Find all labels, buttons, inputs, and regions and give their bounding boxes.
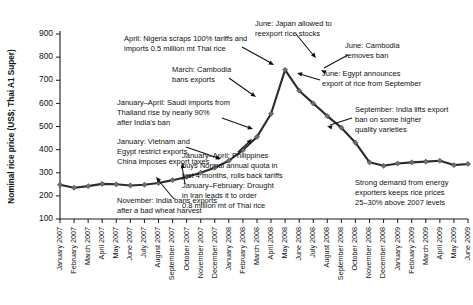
y-tick-label: 500 bbox=[39, 121, 53, 131]
x-tick-label: September 2007 bbox=[167, 227, 176, 280]
annotation-line: April: Nigeria scraps 100% tariffs and bbox=[124, 34, 247, 43]
x-tick-label: March 2007 bbox=[83, 227, 92, 265]
x-tick-label: February 2007 bbox=[69, 227, 78, 274]
leader-arrowhead bbox=[247, 125, 253, 129]
leader-arrowhead bbox=[268, 61, 274, 65]
data-point bbox=[437, 158, 442, 163]
leader-line bbox=[229, 78, 253, 95]
annotation-nigeria-tariffs-apr-2008: April: Nigeria scraps 100% tariffs andim… bbox=[124, 34, 274, 65]
y-axis-title: Nominal rice price (US$; Thai A1 Super) bbox=[7, 49, 16, 204]
annotation-line: March: Cambodia bbox=[172, 65, 232, 74]
annotation-line: June: Japan allowed to bbox=[255, 19, 332, 28]
leader-line bbox=[242, 47, 271, 63]
annotation-egypt-export-jun-2008: June: Egypt announcesexport of rice from… bbox=[297, 69, 422, 88]
y-tick-label: 700 bbox=[39, 74, 53, 84]
annotation-line: removes ban bbox=[345, 51, 388, 60]
annotation-line: 25–30% above 2007 levels bbox=[355, 198, 445, 207]
y-tick-label: 800 bbox=[39, 51, 53, 61]
x-tick-label: January 2007 bbox=[55, 227, 64, 271]
annotation-line: quality varieties bbox=[355, 125, 407, 134]
x-tick-label: October 2008 bbox=[350, 227, 359, 271]
annotation-saudi-imports-jan-apr-2008: January–April: Saudi imports fromThailan… bbox=[117, 98, 253, 129]
x-tick-label: March 2009 bbox=[421, 227, 430, 265]
y-tick-label: 200 bbox=[39, 190, 53, 200]
x-tick-label: May 2007 bbox=[111, 227, 120, 259]
x-tick-label: April 2007 bbox=[97, 227, 106, 259]
annotation-line: Strong demand from energy bbox=[355, 178, 449, 187]
annotation-line: June: Cambodia bbox=[345, 41, 400, 50]
data-point bbox=[86, 184, 91, 189]
annotation-line: buys Normal annual quota in bbox=[182, 161, 277, 170]
x-tick-label: December 2007 bbox=[210, 227, 219, 278]
annotation-line: June: Egypt announces bbox=[322, 69, 401, 78]
annotation-line: Thailand rise by nearly 90% bbox=[117, 108, 210, 117]
x-tick-label: July 2007 bbox=[139, 227, 148, 258]
x-tick-label: February 2008 bbox=[238, 227, 247, 274]
x-tick-label: January 2009 bbox=[393, 227, 402, 271]
x-tick-label: October 2007 bbox=[182, 227, 191, 271]
leader-arrowhead bbox=[327, 125, 333, 129]
annotation-energy-exporters-demand: Strong demand from energyexporters keeps… bbox=[355, 178, 449, 207]
x-tick-label: March 2008 bbox=[252, 227, 261, 265]
data-point bbox=[71, 185, 76, 190]
x-tick-label: May 2008 bbox=[280, 227, 289, 259]
data-point bbox=[128, 183, 133, 188]
annotation-line: in Iran leads it to order bbox=[182, 191, 257, 200]
annotation-line: just 4 months, rolls back tariffs bbox=[181, 171, 283, 180]
x-axis: January 2007February 2007March 2007April… bbox=[55, 219, 472, 280]
annotation-india-lifts-ban-sep-2008: September: India lifts exportban on some… bbox=[327, 105, 449, 134]
data-point bbox=[381, 163, 386, 168]
annotation-line: Egypt restrict exports. bbox=[117, 147, 190, 156]
annotation-line: reexport rice stocks bbox=[255, 29, 320, 38]
data-point bbox=[114, 182, 119, 187]
x-tick-label: January 2008 bbox=[224, 227, 233, 271]
annotation-line: imports 0.5 million mt Thai rice bbox=[124, 44, 226, 53]
y-tick-label: 300 bbox=[39, 167, 53, 177]
annotation-layer: November: India bans exportsafter a bad … bbox=[117, 19, 449, 215]
chart-canvas: 100200300400500600700800900Nominal rice … bbox=[0, 0, 473, 305]
x-tick-label: August 2007 bbox=[153, 227, 162, 267]
x-tick-label: February 2009 bbox=[407, 227, 416, 274]
annotation-cambodia-bans-mar-2008: March: Cambodiabans exports bbox=[172, 65, 256, 97]
leader-line bbox=[324, 55, 348, 68]
data-point bbox=[100, 181, 105, 186]
annotation-line: January–April: Saudi imports from bbox=[117, 98, 230, 107]
annotation-japan-reexport-jun-2008: June: Japan allowed toreexport rice stoc… bbox=[255, 19, 332, 58]
leader-line bbox=[300, 74, 320, 80]
annotation-philippines-quota-jan-apr-2008: January–April: Philippinesbuys Normal an… bbox=[181, 139, 283, 180]
x-tick-label: April 2009 bbox=[435, 227, 444, 259]
leader-arrowhead bbox=[297, 72, 303, 76]
x-tick-label: November 2008 bbox=[364, 227, 373, 278]
y-tick-label: 600 bbox=[39, 98, 53, 108]
annotation-line: after India's ban bbox=[117, 118, 170, 127]
data-point bbox=[409, 160, 414, 165]
x-tick-label: April 2008 bbox=[266, 227, 275, 259]
data-point bbox=[170, 178, 175, 183]
data-point bbox=[423, 159, 428, 164]
data-point bbox=[451, 163, 456, 168]
rice-price-chart: 100200300400500600700800900Nominal rice … bbox=[0, 0, 473, 305]
data-point bbox=[142, 182, 147, 187]
annotation-line: exporters keeps rice prices bbox=[355, 188, 445, 197]
x-tick-label: May 2009 bbox=[449, 227, 458, 259]
y-tick-label: 400 bbox=[39, 144, 53, 154]
leader-line bbox=[222, 118, 250, 128]
x-tick-label: June 2007 bbox=[125, 227, 134, 261]
y-axis: 100200300400500600700800900Nominal rice … bbox=[7, 28, 60, 223]
x-tick-label: July 2008 bbox=[308, 227, 317, 258]
annotation-line: January–February: Drought bbox=[182, 181, 275, 190]
x-tick-label: June 2008 bbox=[294, 227, 303, 261]
x-tick-label: September 2008 bbox=[336, 227, 345, 280]
annotation-line: January: Vietnam and bbox=[117, 137, 190, 146]
x-tick-label: August 2008 bbox=[322, 227, 331, 267]
data-point bbox=[395, 161, 400, 166]
y-tick-label: 900 bbox=[39, 28, 53, 38]
x-tick-label: June 2009 bbox=[463, 227, 472, 261]
annotation-line: 0.8 million mt of Thai rice bbox=[182, 201, 265, 210]
annotation-line: ban on some higher bbox=[355, 115, 422, 124]
leader-arrowhead bbox=[250, 92, 256, 97]
annotation-line: September: India lifts export bbox=[355, 105, 449, 114]
x-tick-label: November 2007 bbox=[196, 227, 205, 278]
x-tick-label: December 2008 bbox=[378, 227, 387, 278]
annotation-line: bans exports bbox=[172, 75, 215, 84]
